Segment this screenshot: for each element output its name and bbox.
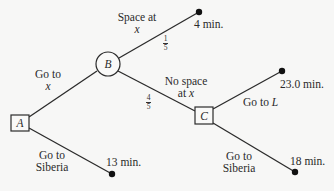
probability-four-fifths: 4 5: [146, 94, 151, 110]
terminal-dot-space: [196, 9, 202, 15]
edge-label-c-go-to-siberia: Go to Siberia: [217, 150, 261, 174]
outcome-23-min: 23.0 min.: [280, 78, 324, 90]
edge-label-var: x: [189, 87, 194, 99]
edge-label-line2: at x: [158, 87, 214, 99]
edge-label-go-to-l: Go to L: [243, 96, 278, 108]
edge-label-line1: Go to: [28, 68, 68, 80]
node-a-label: A: [11, 116, 29, 130]
edge-label-var: x: [28, 80, 68, 92]
edge-label-line1: No space: [158, 75, 214, 87]
edge-label-line1: Space at: [112, 11, 162, 23]
edge-label-line2: Siberia: [30, 161, 74, 173]
edge-label-var: L: [272, 96, 278, 108]
edge-label-line2: Siberia: [217, 162, 261, 174]
edge-label-text: Go to: [243, 96, 272, 108]
outcome-13-min: 13 min.: [106, 156, 141, 168]
prob-numerator: 1: [164, 35, 168, 42]
edge-label-line1: Go to: [217, 150, 261, 162]
edge-label-line1: Go to: [30, 149, 74, 161]
node-c-label: C: [195, 109, 213, 123]
outcome-18-min: 18 min.: [290, 155, 325, 167]
edge-label-no-space-at-x: No space at x: [158, 75, 214, 99]
edge-label-prefix: at: [178, 87, 189, 99]
edge-label-a-go-to-siberia: Go to Siberia: [30, 149, 74, 173]
prob-denominator: 5: [164, 44, 168, 51]
probability-one-fifth: 1 5: [163, 35, 168, 51]
terminal-dot-a-siberia: [109, 171, 115, 177]
prob-numerator: 4: [147, 94, 151, 101]
edge-label-go-to-x: Go to x: [28, 68, 68, 92]
outcome-4-min: 4 min.: [194, 18, 223, 30]
terminal-dot-c-siberia: [292, 169, 298, 175]
prob-denominator: 5: [147, 103, 151, 110]
node-b-label: B: [96, 57, 120, 71]
edge-label-var: x: [112, 23, 162, 35]
terminal-dot-go-to-l: [279, 68, 285, 74]
edge-label-space-at-x: Space at x: [112, 11, 162, 35]
